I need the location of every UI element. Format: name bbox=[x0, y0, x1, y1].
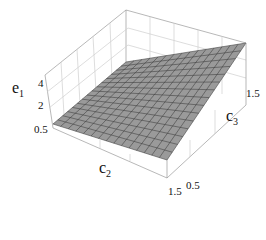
x-axis-title-sub: 2 bbox=[106, 168, 111, 179]
y-tick-0-5: 0.5 bbox=[186, 180, 200, 191]
y-axis-title-sub: 3 bbox=[233, 116, 238, 127]
z-tick-2: 2 bbox=[38, 100, 44, 111]
z-tick-0-5: 0.5 bbox=[34, 124, 48, 135]
z-tick-4: 4 bbox=[38, 78, 44, 89]
x-axis-title: c2 bbox=[99, 160, 111, 179]
surface-mesh bbox=[53, 43, 246, 160]
y-axis-title: c3 bbox=[226, 108, 238, 127]
z-axis-title: e1 bbox=[12, 80, 24, 99]
z-axis-title-sub: 1 bbox=[19, 88, 24, 99]
y-tick-1-5: 1.5 bbox=[246, 88, 260, 99]
x-tick-1-5: 1.5 bbox=[168, 186, 182, 197]
